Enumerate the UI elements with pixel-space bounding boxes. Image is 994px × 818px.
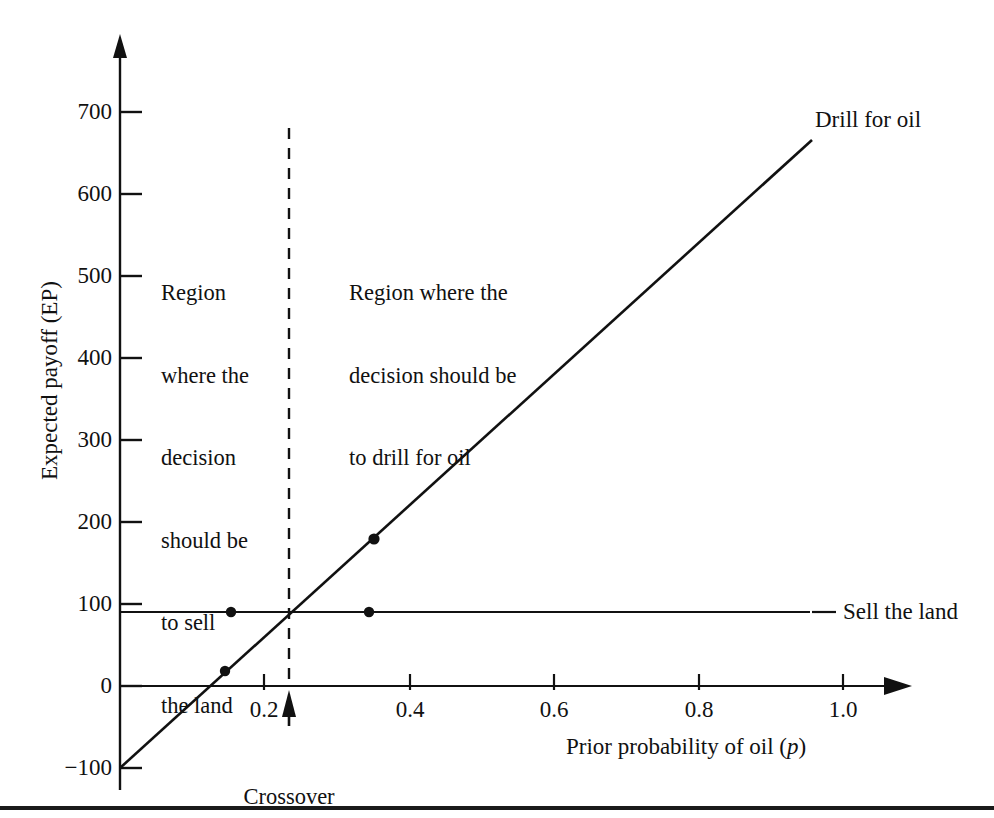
y-axis-ticks [120,112,142,768]
x-tick-label-0-4: 0.4 [380,698,440,721]
annotation-left-region-line: Region [161,279,249,307]
annotation-right-region-line: Region where the [349,279,516,307]
y-axis-arrow-icon [113,34,127,58]
x-axis-title-variable: p [787,734,799,759]
y-axis-title: Expected payoff (EP) [38,281,61,480]
series-label-sell-the-land: Sell the land [843,600,958,623]
annotation-left-region-line: should be [161,527,249,555]
annotation-left-region-line: to sell [161,609,249,637]
data-point-sell [364,607,374,617]
figure-bottom-rule [0,806,994,810]
figure-chart-expected-payoff: 700 600 500 400 300 200 100 0 −100 0.2 0… [0,0,994,818]
x-axis-title-end: ) [799,734,807,759]
x-axis-title-main: Prior probability of oil ( [566,734,787,759]
y-tick-label-100: 100 [52,592,112,615]
y-tick-label-minus-100: −100 [30,756,112,779]
x-axis-title: Prior probability of oil (p) [566,735,806,758]
annotation-left-region-line: where the [161,362,249,390]
x-axis-arrow-icon [884,677,912,695]
y-tick-label-0: 0 [52,674,112,697]
annotation-left-region: Region where the decision should be to s… [161,224,249,774]
annotation-right-region: Region where the decision should be to d… [349,224,516,527]
annotation-right-region-line: decision should be [349,362,516,390]
annotation-crossover-point: Crossover point [219,728,359,818]
y-tick-label-600: 600 [52,182,112,205]
crossover-line [282,128,296,726]
data-point-drill [368,533,379,544]
y-tick-label-200: 200 [52,510,112,533]
x-tick-label-0-8: 0.8 [669,698,729,721]
y-tick-label-700: 700 [52,100,112,123]
x-tick-label-1-0: 1.0 [813,698,873,721]
series-label-drill-for-oil: Drill for oil [815,108,921,131]
y-axis [113,34,127,790]
annotation-left-region-line: the land [161,692,249,720]
x-axis-ticks [264,674,843,690]
annotation-right-region-line: to drill for oil [349,444,516,472]
annotation-left-region-line: decision [161,444,249,472]
x-tick-label-0-6: 0.6 [524,698,584,721]
